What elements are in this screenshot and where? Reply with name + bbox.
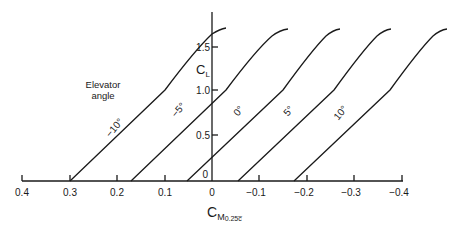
x-tick-label: −0.2 <box>294 187 314 198</box>
x-tick-label: 0.4 <box>15 187 29 198</box>
y-tick-label: 1.0 <box>196 85 210 96</box>
curve-label: −10° <box>103 116 125 139</box>
curves <box>70 28 447 181</box>
curve-labels: Elevator angle −10° −5° 0° 5° 10° <box>86 79 350 139</box>
y-tick-label: 0.5 <box>196 130 210 141</box>
curve-label: −5° <box>169 100 187 119</box>
curve-elevator-5 <box>238 29 391 181</box>
lift-moment-chart: 0.4 0.3 0.2 0.1 0 −0.1 −0.2 −0.3 −0.4 CM… <box>0 0 458 225</box>
x-tick-label: −0.4 <box>389 187 409 198</box>
curve-label: 0° <box>231 104 246 118</box>
x-tick-label: 0.3 <box>63 187 77 198</box>
x-tick-label: 0.1 <box>158 187 172 198</box>
curve-label: 5° <box>281 104 296 118</box>
x-tick-label: 0 <box>209 187 215 198</box>
annotation-label: Elevator <box>86 79 121 90</box>
x-tick-label: −0.3 <box>341 187 361 198</box>
y-axis: 0 0.5 1.0 1.5 CL <box>196 12 218 181</box>
annotation-label: angle <box>91 90 114 101</box>
x-axis-label: CM0.25c̅ <box>207 204 243 222</box>
curve-elevator-10 <box>294 29 447 181</box>
y-tick-label: 0 <box>202 169 208 180</box>
x-axis: 0.4 0.3 0.2 0.1 0 −0.1 −0.2 −0.3 −0.4 CM… <box>15 175 409 222</box>
x-tick-label: −0.1 <box>246 187 266 198</box>
curve-label: 10° <box>331 103 349 122</box>
x-tick-label: 0.2 <box>110 187 124 198</box>
y-axis-label: CL <box>196 62 210 79</box>
